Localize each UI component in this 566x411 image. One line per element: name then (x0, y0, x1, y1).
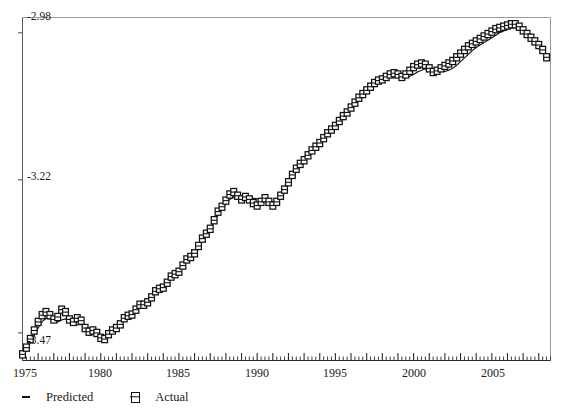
y-axis-ticks (18, 33, 23, 333)
x-tick-label-1995: 1995 (323, 366, 347, 381)
series-markers-actual (20, 21, 550, 358)
legend-label-predicted: Predicted (46, 390, 93, 405)
x-tick-label-1985: 1985 (166, 366, 190, 381)
y-tick-label-top: -2.98 (27, 10, 51, 22)
x-tick-label-1990: 1990 (245, 366, 269, 381)
dash-marker-icon (18, 390, 34, 404)
x-tick-label-1980: 1980 (88, 366, 112, 381)
legend-entry-predicted: Predicted (18, 388, 93, 406)
legend-label-actual: Actual (155, 390, 188, 405)
x-tick-label-1975: 1975 (13, 366, 37, 381)
square-marker-icon (127, 390, 143, 404)
legend-entry-actual: Actual (127, 388, 188, 406)
y-tick-label-mid: -3.22 (27, 170, 51, 182)
x-tick-label-2000: 2000 (402, 366, 426, 381)
chart-figure: -2.98 -3.22 -3.47 1975 1980 1985 1990 19… (0, 0, 566, 411)
chart-legend: Predicted Actual (18, 388, 189, 406)
x-axis-ticks (23, 353, 551, 361)
y-tick-label-bottom: -3.47 (27, 334, 51, 346)
plot-canvas (0, 0, 566, 411)
x-tick-label-2005: 2005 (481, 366, 505, 381)
